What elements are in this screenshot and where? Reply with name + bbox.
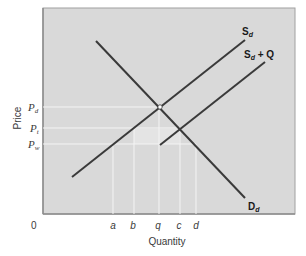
tick-q: q — [155, 220, 161, 231]
label-pd: Pd — [27, 101, 39, 115]
equilibrium-point — [158, 105, 162, 109]
tick-b: b — [130, 220, 136, 231]
y-axis-label: Price — [12, 106, 23, 129]
tick-d: d — [193, 220, 199, 231]
x-axis-label: Quantity — [148, 236, 185, 247]
origin-label: 0 — [31, 220, 37, 231]
tick-c: c — [177, 220, 182, 231]
label-pw: Pw — [27, 138, 40, 152]
label-pt: Pt — [29, 122, 40, 136]
plot-area — [43, 8, 295, 214]
label-sd-plus-q: Sd + Q — [244, 49, 274, 61]
tick-a: a — [110, 220, 116, 231]
supply-demand-diagram: Sd Sd + Q Dd Pd Pt Pw Price 0 a b q c d … — [0, 0, 306, 256]
